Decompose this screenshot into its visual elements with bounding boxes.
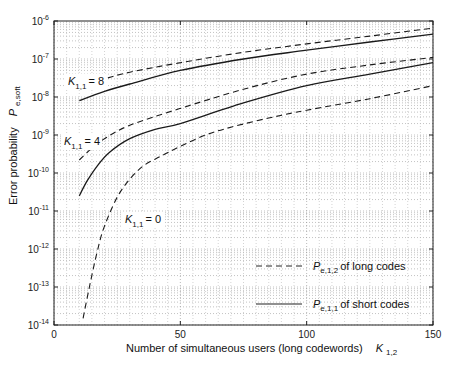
y-axis-symbol-sub: e,soft [13, 86, 22, 106]
y-tick-label: 10-7 [32, 52, 49, 65]
x-axis-label: Number of simultaneous users (long codew… [126, 342, 363, 354]
legend-entry-short: Pe,1,1of short codes [313, 298, 410, 313]
y-tick-label: 10-9 [32, 128, 49, 141]
y-tick-label: 10-14 [28, 318, 49, 331]
y-tick-label: 10-13 [28, 280, 49, 293]
y-tick-label: 10-10 [28, 166, 49, 179]
x-tick-label: 100 [298, 329, 315, 340]
x-axis-symbol-sub: 1,2 [386, 348, 398, 357]
x-tick-label: 150 [425, 329, 442, 340]
svg-text:Error probability P: Error probability P e,soft [7, 86, 22, 205]
legend: Pe,1,2of long codes Pe,1,1of short codes [256, 260, 410, 313]
x-axis-title: Number of simultaneous users (long codew… [126, 342, 398, 357]
y-tick-label: 10-8 [32, 90, 49, 103]
y-tick-label: 10-11 [28, 204, 49, 217]
x-tick-label: 0 [51, 329, 57, 340]
y-tick-label: 10-6 [32, 14, 49, 27]
y-axis-title: Error probability P e,soft [7, 86, 22, 205]
x-axis-symbol: K [376, 342, 384, 354]
y-axis-label: Error probability [7, 127, 19, 205]
y-tick-label: 10-12 [28, 242, 49, 255]
series-line-4 [83, 86, 433, 319]
error-probability-chart: 05010015010-610-710-810-910-1010-1110-12… [0, 0, 455, 366]
x-tick-label: 50 [175, 329, 187, 340]
legend-entry-long: Pe,1,2of long codes [313, 260, 406, 275]
grid [54, 21, 433, 325]
y-axis-symbol: P [7, 108, 19, 116]
